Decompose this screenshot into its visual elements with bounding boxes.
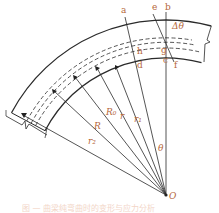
label-a: a: [121, 6, 126, 15]
label-r1: r₁: [134, 115, 142, 124]
label-e: e: [152, 3, 157, 12]
curved-beam-diagram: a e b Δθ h g c d f r₁ r R₀ R r₂ θ O 图 — …: [0, 0, 219, 213]
label-delta-theta: Δθ: [172, 22, 184, 31]
label-d: d: [137, 61, 143, 70]
label-c: c: [163, 56, 168, 65]
label-b: b: [165, 3, 171, 12]
label-h: h: [137, 47, 143, 56]
label-R: R: [94, 122, 101, 131]
label-f: f: [174, 61, 177, 70]
left-break-mark: [6, 116, 47, 135]
label-r: r: [120, 112, 124, 121]
label-r2: r₂: [88, 137, 96, 146]
label-g: g: [161, 46, 167, 55]
figure-caption: 图 — 曲梁纯弯曲时的变形与应力分析: [22, 202, 155, 213]
label-theta: θ: [158, 144, 163, 153]
label-R0: R₀: [106, 108, 116, 117]
right-break-mark: [204, 26, 211, 62]
label-O: O: [169, 192, 176, 201]
